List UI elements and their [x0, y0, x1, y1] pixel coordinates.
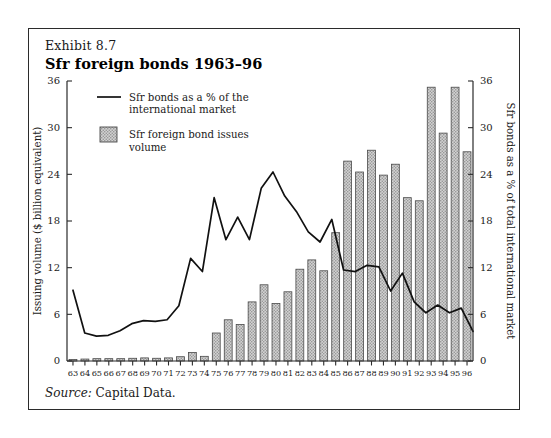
bar-80	[272, 303, 280, 361]
x-tick-label-72: 72	[175, 368, 185, 378]
x-tick-label-92: 92	[414, 368, 424, 378]
x-tick-label-71: 71	[163, 368, 173, 378]
y-tick-label-left-18: 18	[47, 215, 60, 226]
y-tick-label-left-24: 24	[47, 169, 60, 180]
y-tick-label-right-30: 30	[480, 122, 493, 133]
x-tick-label-63: 63	[68, 368, 78, 378]
x-tick-label-95: 95	[450, 368, 460, 378]
legend-bar-swatch	[100, 127, 117, 142]
x-tick-label-91: 91	[402, 368, 412, 378]
source-caption: Source: Capital Data.	[45, 386, 176, 400]
x-tick-label-74: 74	[199, 368, 209, 378]
x-tick-label-90: 90	[390, 368, 400, 378]
bar-83	[308, 260, 316, 361]
bar-85	[332, 233, 340, 361]
y-tick-label-left-36: 36	[47, 77, 60, 86]
bar-89	[380, 175, 388, 361]
bar-96	[463, 152, 471, 361]
bar-81	[284, 292, 292, 361]
exhibit-number: Exhibit 8.7	[45, 38, 116, 53]
bar-75	[212, 333, 220, 361]
sfr-foreign-bonds-chart: 0066121218182424303036366364656667686970…	[29, 77, 521, 387]
x-tick-label-87: 87	[354, 368, 364, 378]
x-tick-label-89: 89	[378, 368, 388, 378]
x-tick-label-88: 88	[366, 368, 376, 378]
x-tick-label-94: 94	[438, 368, 448, 378]
bar-76	[224, 320, 232, 361]
x-tick-label-73: 73	[187, 368, 197, 378]
bar-77	[236, 324, 244, 361]
x-tick-label-93: 93	[426, 368, 436, 378]
x-tick-label-64: 64	[80, 368, 90, 378]
bar-95	[451, 87, 459, 361]
x-tick-label-85: 85	[330, 368, 340, 378]
x-tick-label-83: 83	[307, 368, 317, 378]
x-tick-label-65: 65	[92, 368, 102, 378]
x-tick-label-86: 86	[342, 368, 352, 378]
bar-73	[188, 352, 196, 361]
x-tick-label-78: 78	[247, 368, 257, 378]
bar-78	[248, 302, 256, 361]
y-tick-label-right-36: 36	[480, 77, 493, 86]
x-tick-label-66: 66	[104, 368, 114, 378]
bar-86	[344, 161, 352, 361]
source-value: Capital Data.	[96, 386, 176, 400]
bar-94	[439, 133, 447, 361]
x-tick-label-77: 77	[235, 368, 245, 378]
bar-90	[391, 164, 399, 361]
y-tick-label-right-6: 6	[480, 309, 486, 320]
x-tick-label-75: 75	[211, 368, 221, 378]
bar-93	[427, 87, 435, 361]
bar-92	[415, 201, 423, 361]
exhibit-frame: Exhibit 8.7 Sfr foreign bonds 1963–96 00…	[28, 28, 520, 410]
source-label: Source:	[45, 386, 92, 400]
y-tick-label-left-0: 0	[54, 355, 60, 366]
x-tick-label-76: 76	[223, 368, 233, 378]
y-tick-label-left-30: 30	[47, 122, 60, 133]
y-axis-title-left: Issuing volume ($ billion equivalent)	[32, 127, 43, 316]
x-tick-label-84: 84	[319, 368, 329, 378]
legend-bar-label-1: Sfr foreign bond issues	[129, 129, 249, 140]
y-axis-title-right: Sfr bonds as a % of total international …	[505, 103, 516, 341]
bar-79	[260, 285, 268, 361]
y-tick-label-right-24: 24	[480, 169, 493, 180]
x-tick-label-96: 96	[462, 368, 472, 378]
y-tick-label-left-6: 6	[54, 309, 60, 320]
bar-74	[200, 356, 208, 361]
bar-82	[296, 269, 304, 361]
chart-plot-area: 0066121218182424303036366364656667686970…	[29, 77, 521, 387]
x-tick-label-79: 79	[259, 368, 269, 378]
x-tick-label-70: 70	[151, 368, 161, 378]
x-tick-label-81: 81	[283, 368, 293, 378]
legend-bar-label-2: volume	[128, 142, 166, 153]
x-tick-label-67: 67	[116, 368, 126, 378]
x-tick-label-69: 69	[139, 368, 149, 378]
bar-72	[177, 357, 185, 361]
x-tick-label-82: 82	[295, 368, 305, 378]
y-tick-label-right-12: 12	[480, 262, 493, 273]
bar-84	[320, 271, 328, 361]
legend-line-label-1: Sfr bonds as a % of the	[129, 92, 249, 103]
page-title: Sfr foreign bonds 1963–96	[45, 55, 262, 72]
legend-line-label-2: international market	[129, 104, 237, 115]
x-tick-label-68: 68	[127, 368, 137, 378]
y-tick-label-right-18: 18	[480, 215, 493, 226]
bar-87	[356, 172, 364, 361]
y-tick-label-left-12: 12	[47, 262, 60, 273]
x-tick-label-80: 80	[271, 368, 281, 378]
chart-legend: Sfr bonds as a % of theinternational mar…	[97, 92, 249, 153]
bar-88	[368, 150, 376, 361]
y-tick-label-right-0: 0	[480, 355, 486, 366]
